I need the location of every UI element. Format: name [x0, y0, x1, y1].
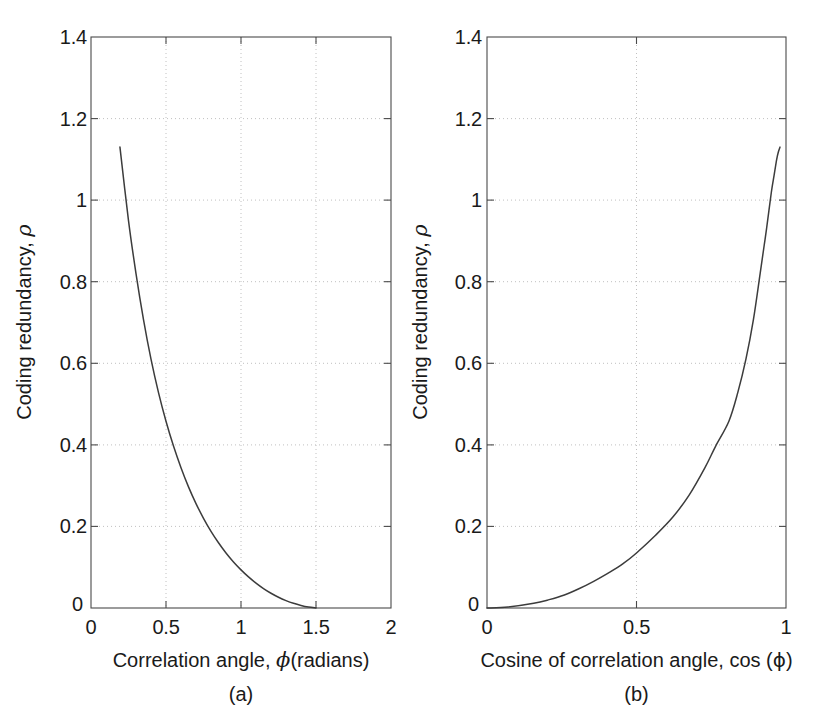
x-axis-title-a: Correlation angle, ϕ(radians): [113, 648, 370, 672]
xtick-label-a-0.5: 0.5: [152, 616, 179, 639]
ytick-label-a-1.2: 1.2: [60, 107, 87, 130]
ytick-label-b-0.8: 0.8: [455, 270, 482, 293]
data-curve-b: [487, 147, 780, 608]
y-axis-title-b-text: Coding redundancy,: [409, 237, 431, 420]
x-axis-title-b-suffix: ): [786, 649, 793, 671]
ytick-label-a-1.0: 1: [76, 189, 87, 212]
ytick-label-b-1.4: 1.4: [455, 26, 482, 49]
xtick-label-a-2: 2: [386, 616, 397, 639]
x-axis-title-a-suffix: (radians): [290, 649, 369, 671]
figure-container: 1.4 1.2 1 0.8 0.6 0.4 0.2 0 0 0.5 1 1.5 …: [0, 0, 826, 722]
axis-frame-a: [91, 37, 391, 608]
data-curve-a: [120, 147, 316, 608]
ytick-label-b-1.2: 1.2: [455, 107, 482, 130]
ticks-b: [487, 37, 786, 608]
xtick-label-a-0: 0: [86, 616, 97, 639]
panel-caption-a: (a): [229, 683, 253, 706]
ytick-label-b-0: 0: [468, 593, 479, 616]
ticks-a: [91, 37, 391, 608]
ytick-label-a-1.4: 1.4: [60, 26, 87, 49]
panel-a: 1.4 1.2 1 0.8 0.6 0.4 0.2 0 0 0.5 1 1.5 …: [0, 0, 413, 722]
x-axis-title-b: Cosine of correlation angle, cos (ϕ): [480, 648, 792, 672]
y-axis-title-a: Coding redundancy, ρ: [12, 224, 36, 419]
ytick-label-a-0: 0: [72, 593, 83, 616]
xtick-label-b-1: 1: [781, 616, 792, 639]
rho-symbol-a: ρ: [12, 224, 36, 236]
panel-b: 1.4 1.2 1 0.8 0.6 0.4 0.2 0 0 0.5 1 Cosi…: [413, 0, 826, 722]
axis-frame-b: [487, 37, 786, 608]
xtick-label-b-0: 0: [482, 616, 493, 639]
panel-caption-b: (b): [624, 683, 648, 706]
ytick-label-a-0.6: 0.6: [60, 352, 87, 375]
ytick-label-a-0.8: 0.8: [60, 270, 87, 293]
ytick-label-b-0.4: 0.4: [455, 433, 482, 456]
xtick-label-a-1: 1: [236, 616, 247, 639]
xtick-label-b-0.5: 0.5: [623, 616, 650, 639]
phi-symbol-a: ϕ: [276, 648, 290, 672]
xtick-label-a-1.5: 1.5: [302, 616, 329, 639]
rho-symbol-b: ρ: [408, 224, 432, 236]
ytick-label-b-1.0: 1: [471, 189, 482, 212]
y-axis-title-a-text: Coding redundancy,: [13, 237, 35, 420]
ytick-label-a-0.4: 0.4: [60, 433, 87, 456]
ytick-label-b-0.2: 0.2: [455, 515, 482, 538]
x-axis-title-b-text: Cosine of correlation angle, cos (: [480, 649, 772, 671]
ytick-label-b-0.6: 0.6: [455, 352, 482, 375]
gridlines-b: [487, 37, 786, 608]
y-axis-title-b: Coding redundancy, ρ: [408, 224, 432, 419]
phi-symbol-b: ϕ: [773, 648, 786, 672]
ytick-label-a-0.2: 0.2: [60, 515, 87, 538]
gridlines-a: [91, 37, 391, 608]
x-axis-title-a-text: Correlation angle,: [113, 649, 276, 671]
